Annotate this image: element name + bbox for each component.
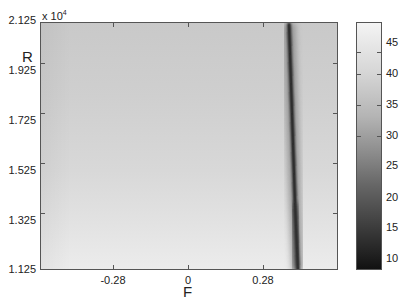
cb-tick <box>357 136 361 137</box>
cb-tick <box>377 52 381 53</box>
x-tick <box>263 265 264 269</box>
y-tick <box>41 63 45 64</box>
x-tick <box>263 23 264 27</box>
exp-power: 4 <box>63 9 67 16</box>
colorbar-label: 35 <box>386 98 398 110</box>
y-tick <box>333 113 337 114</box>
colorbar-label: 15 <box>386 221 398 233</box>
y-tick <box>41 113 45 114</box>
cb-tick <box>377 105 381 106</box>
x-tick <box>188 23 189 27</box>
colorbar-label: 25 <box>386 159 398 171</box>
y-tick-label: 1.325 <box>0 214 36 226</box>
colorbar-label: 45 <box>386 36 398 48</box>
y-tick <box>333 63 337 64</box>
x-tick <box>113 23 114 27</box>
x-tick <box>188 265 189 269</box>
cb-tick <box>377 74 381 75</box>
cb-tick <box>357 52 361 53</box>
x-tick <box>113 265 114 269</box>
y-tick-label: 1.725 <box>0 114 36 126</box>
x-tick-label: -0.28 <box>93 274 133 286</box>
y-tick <box>41 213 45 214</box>
y-tick <box>333 163 337 164</box>
y-tick-label: 1.925 <box>0 64 36 76</box>
y-axis-multiplier: x 104 <box>42 9 67 22</box>
y-tick-label: 1.125 <box>0 263 36 275</box>
y-tick-label: 1.525 <box>0 164 36 176</box>
y-tick <box>333 213 337 214</box>
colorbar-label: 20 <box>386 191 398 203</box>
dark-ridge <box>41 23 338 270</box>
y-axis-label: R <box>22 48 33 65</box>
cb-tick <box>357 105 361 106</box>
cb-tick <box>377 136 381 137</box>
x-tick-label: 0.28 <box>243 274 283 286</box>
x-axis-label: F <box>183 283 192 300</box>
colorbar-label: 30 <box>386 129 398 141</box>
exp-base: x 10 <box>42 10 63 22</box>
plot-area <box>40 22 338 270</box>
y-tick-label: 2.125 <box>0 14 36 26</box>
colorbar-label: 10 <box>386 252 398 264</box>
colorbar-label: 40 <box>386 67 398 79</box>
cb-tick <box>357 74 361 75</box>
y-tick <box>41 163 45 164</box>
colorbar <box>356 22 382 270</box>
